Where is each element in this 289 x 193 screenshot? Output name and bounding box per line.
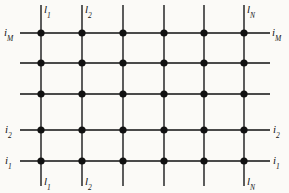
- label-subscript: 2: [88, 11, 92, 20]
- node-r5-c3: [119, 157, 126, 164]
- node-r2-c2: [78, 59, 85, 66]
- label-subscript: N: [250, 183, 255, 192]
- node-r1-c3: [119, 29, 126, 36]
- node-r5-c5: [200, 157, 207, 164]
- label-subscript: 1: [8, 162, 12, 171]
- rows_right-label-i2: i2: [273, 124, 280, 135]
- node-r3-c6: [240, 90, 247, 97]
- grid-network-diagram: l1l2lNl1l2lNiMi2i1iMi2i1: [0, 0, 289, 193]
- grid-lines-svg: [0, 0, 289, 193]
- rows_right-label-i1: i1: [273, 155, 280, 166]
- columns_bottom-label-lN: lN: [247, 176, 255, 187]
- node-r4-c3: [119, 126, 126, 133]
- label-subscript: 2: [8, 131, 12, 140]
- node-r2-c5: [200, 59, 207, 66]
- columns_bottom-label-l1: l1: [44, 176, 51, 187]
- columns_bottom-label-l2: l2: [85, 176, 92, 187]
- node-r3-c1: [37, 90, 44, 97]
- node-r2-c4: [160, 59, 167, 66]
- rows_left-label-i1: i1: [5, 155, 12, 166]
- node-r4-c5: [200, 126, 207, 133]
- node-r5-c6: [240, 157, 247, 164]
- columns_top-label-l1: l1: [44, 4, 51, 15]
- node-r4-c1: [37, 126, 44, 133]
- node-r4-c4: [160, 126, 167, 133]
- node-r1-c2: [78, 29, 85, 36]
- rows_right-label-iM: iM: [272, 27, 281, 38]
- label-subscript: 2: [88, 183, 92, 192]
- label-subscript: N: [250, 11, 255, 20]
- node-r3-c2: [78, 90, 85, 97]
- node-r2-c3: [119, 59, 126, 66]
- node-r5-c2: [78, 157, 85, 164]
- node-r1-c4: [160, 29, 167, 36]
- rows_left-label-i2: i2: [5, 124, 12, 135]
- label-subscript: 1: [47, 11, 51, 20]
- label-subscript: M: [7, 34, 13, 43]
- node-r5-c1: [37, 157, 44, 164]
- node-r4-c2: [78, 126, 85, 133]
- rows_left-label-iM: iM: [4, 27, 13, 38]
- node-r3-c3: [119, 90, 126, 97]
- node-r3-c4: [160, 90, 167, 97]
- label-subscript: 1: [276, 162, 280, 171]
- node-r1-c1: [37, 29, 44, 36]
- node-r3-c5: [200, 90, 207, 97]
- node-r4-c6: [240, 126, 247, 133]
- node-r1-c6: [240, 29, 247, 36]
- label-subscript: 2: [276, 131, 280, 140]
- columns_top-label-lN: lN: [247, 4, 255, 15]
- label-subscript: 1: [47, 183, 51, 192]
- label-subscript: M: [275, 34, 281, 43]
- columns_top-label-l2: l2: [85, 4, 92, 15]
- node-r5-c4: [160, 157, 167, 164]
- node-r2-c1: [37, 59, 44, 66]
- node-r2-c6: [240, 59, 247, 66]
- node-r1-c5: [200, 29, 207, 36]
